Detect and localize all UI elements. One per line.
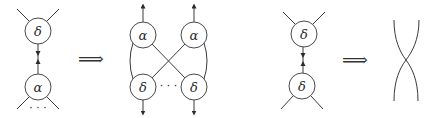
ellipsis: · · · [160,80,177,93]
node-label: α [139,28,148,43]
arrow-down-icon [36,51,41,56]
wire [204,43,207,79]
implies-arrow-icon: ⟹ [342,49,368,70]
wire [311,96,323,109]
wire [17,9,29,21]
rule2-rhs-diagram [394,20,419,101]
wire [47,9,59,21]
node-label: δ [190,80,198,95]
rule2-lhs-diagram: δ δ [281,12,325,109]
arrow-down-icon [301,53,306,58]
arrow-up-icon [36,59,41,64]
node-label: α [190,28,199,43]
wire [47,97,59,109]
node-label: δ [300,27,308,42]
ellipsis: · · · [29,102,46,115]
wire [17,97,29,109]
node-label: α [34,80,43,95]
rule1-rhs-diagram: α α δ δ · · · [130,6,207,113]
wire [283,12,295,24]
node-label: δ [34,24,42,39]
interaction-net-rules: δ α · · · ⟹ α α δ δ · · · [0,0,440,118]
implies-arrow-icon: ⟹ [78,48,104,69]
wire [313,12,325,24]
node-label: δ [298,79,306,94]
wire [281,96,293,109]
rule1-lhs-diagram: δ α · · · [17,9,59,115]
wire [130,43,133,79]
node-label: δ [139,80,147,95]
arrow-up-icon [301,61,306,66]
